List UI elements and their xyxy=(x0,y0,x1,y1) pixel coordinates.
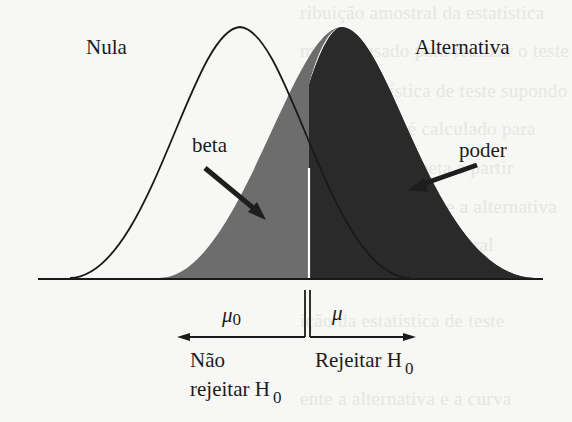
h0-subscript: 0 xyxy=(273,388,282,407)
mu0-symbol: μ xyxy=(222,303,233,327)
alternative-curve-label: Alternativa xyxy=(415,35,509,60)
distribution-curves xyxy=(0,0,572,422)
reject-text: Rejeitar H xyxy=(315,348,402,372)
mu0-subscript: 0 xyxy=(233,310,242,329)
h0-subscript: 0 xyxy=(405,359,414,378)
do-not-reject-arrow xyxy=(177,333,305,341)
mu-label: μ xyxy=(332,301,343,326)
do-not-reject-label-line2: rejeitar H0 xyxy=(190,377,281,402)
reject-arrow xyxy=(310,333,416,341)
hypothesis-test-diagram: ribuição amostral da estatística modelo … xyxy=(0,0,572,422)
reject-label: Rejeitar H0 xyxy=(315,348,413,373)
null-curve-label: Nula xyxy=(86,35,127,60)
mu0-label: μ0 xyxy=(222,303,241,328)
do-not-reject-label-line1: Não xyxy=(190,348,225,373)
decision-divider xyxy=(305,290,310,337)
power-label: poder xyxy=(459,138,507,163)
do-not-reject-text: rejeitar H xyxy=(190,377,270,401)
beta-label: beta xyxy=(192,133,227,158)
